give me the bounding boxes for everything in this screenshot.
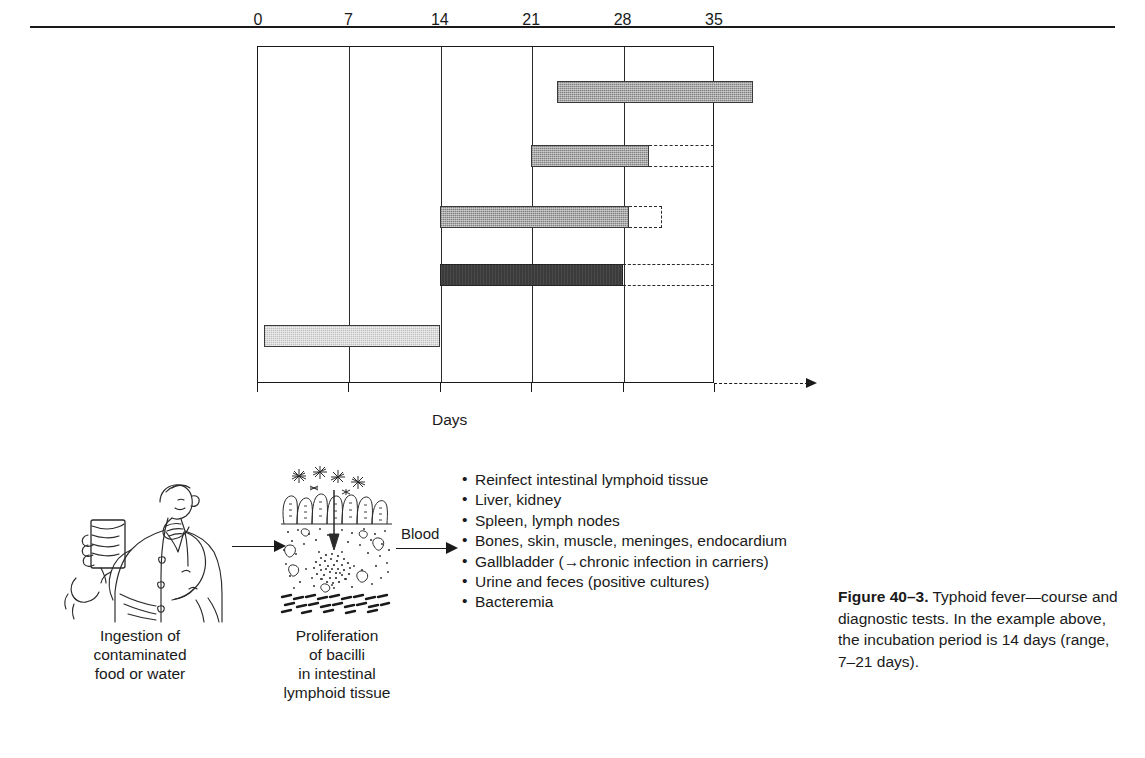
intestinal-lymphoid-tissue-illustration [276, 466, 398, 618]
axis-continuation-dashed-line [714, 383, 808, 384]
axis-continuation-arrow-icon [806, 378, 817, 388]
list-item: Urine and feces (positive cultures) [462, 572, 792, 592]
axis-tick-label-7: 7 [344, 11, 353, 29]
typhoid-course-timeline-chart: Rising antibody titer Positive urine/sto… [0, 0, 780, 440]
pathogenesis-stage1-caption: Ingestion of contaminated food or water [45, 626, 235, 683]
list-item: Gallbladder (→chronic infection in carri… [462, 552, 792, 572]
figure-caption: Figure 40–3. Typhoid fever—course and di… [838, 586, 1123, 672]
flow-arrow-blood-line [396, 548, 448, 549]
pathogenesis-stage2-caption: Proliferation of bacilli in intestinal l… [262, 626, 412, 702]
bar-extension-positive-urine-stool-culture [649, 145, 714, 167]
axis-tick-21 [531, 383, 532, 392]
list-item: Liver, kidney [462, 490, 792, 510]
axis-tick-label-21: 21 [522, 11, 540, 29]
axis-tick-7 [348, 383, 349, 392]
bar-positive-blood-culture [440, 206, 629, 228]
axis-tick-label-0: 0 [254, 11, 263, 29]
axis-tick-label-35: 35 [705, 11, 723, 29]
figure-caption-label: Figure 40–3. [838, 588, 928, 605]
axis-tick-35 [714, 383, 715, 392]
axis-tick-label-28: 28 [614, 11, 632, 29]
person-drinking-contaminated-water-illustration [48, 482, 233, 622]
bar-extension-positive-blood-culture [629, 206, 662, 228]
axis-tick-14 [440, 383, 441, 392]
dissemination-outcomes-list: Reinfect intestinal lymphoid tissue Live… [462, 470, 792, 613]
bar-rising-antibody-titer [557, 81, 753, 103]
list-item: Bacteremia [462, 592, 792, 612]
list-item: Reinfect intestinal lymphoid tissue [462, 470, 792, 490]
axis-tick-label-14: 14 [431, 11, 449, 29]
list-item: Spleen, lymph nodes [462, 511, 792, 531]
transmission-label-blood: Blood [401, 525, 439, 542]
flow-arrow-blood-head [446, 542, 458, 554]
axis-title-days: Days [432, 411, 467, 429]
bar-fever-diarrhea [440, 264, 623, 286]
list-item: Bones, skin, muscle, meninges, endocardi… [462, 531, 792, 551]
flow-arrow-ingestion-to-proliferation-line [232, 546, 276, 547]
bar-extension-fever-diarrhea [623, 264, 714, 286]
axis-tick-28 [623, 383, 624, 392]
bar-positive-urine-stool-culture [531, 145, 649, 167]
bar-incubation [264, 325, 440, 347]
axis-tick-0 [257, 383, 258, 392]
